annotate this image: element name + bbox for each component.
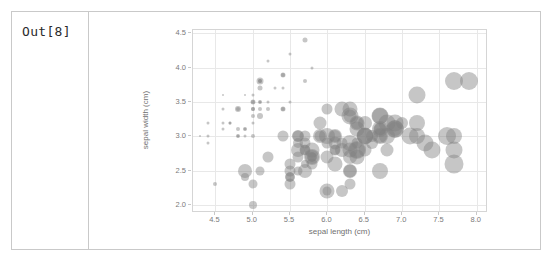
y-tick-label: 2.0 — [160, 199, 186, 208]
scatter-point — [460, 72, 478, 90]
scatter-point — [236, 134, 240, 138]
gridline-vertical — [477, 30, 478, 211]
scatter-point — [266, 59, 269, 62]
scatter-point — [251, 121, 254, 124]
scatter-point — [248, 180, 257, 189]
y-tick-mark — [188, 204, 191, 205]
gridline-horizontal — [193, 68, 486, 69]
scatter-point — [258, 86, 263, 91]
y-tick-label: 4.5 — [160, 28, 186, 37]
output-prompt-column: Out[8] — [12, 12, 89, 249]
x-tick-label: 7.0 — [396, 215, 406, 224]
scatter-point — [266, 107, 270, 111]
y-tick-mark — [188, 67, 191, 68]
scatter-point — [206, 142, 209, 145]
notebook-output-cell: Out[8] sepal width (cm) sepal length (cm… — [11, 11, 541, 250]
scatter-point — [221, 121, 224, 124]
y-tick-label: 4.0 — [160, 62, 186, 71]
scatter-point — [222, 94, 224, 96]
scatter-point — [289, 52, 292, 55]
scatter-point — [313, 129, 327, 143]
scatter-point — [262, 151, 273, 162]
x-tick-label: 5.5 — [284, 215, 294, 224]
scatter-point — [372, 163, 388, 179]
scatter-point — [303, 38, 308, 43]
x-tick-label: 8.0 — [471, 215, 481, 224]
scatter-point — [244, 135, 247, 138]
scatter-point — [258, 107, 262, 111]
x-axis-label: sepal length (cm) — [192, 227, 487, 236]
scatter-point — [335, 101, 350, 116]
output-content-column: sepal width (cm) sepal length (cm) 2.02.… — [89, 12, 540, 249]
scatter-point — [257, 113, 263, 119]
x-tick-label: 6.5 — [359, 215, 369, 224]
scatter-point — [221, 128, 224, 131]
x-tick-label: 4.5 — [209, 215, 219, 224]
y-tick-mark — [188, 170, 191, 171]
scatter-point — [249, 201, 257, 209]
scatter-point — [251, 134, 255, 138]
scatter-point — [281, 73, 285, 77]
x-tick-label: 6.0 — [321, 215, 331, 224]
scatter-point — [277, 131, 288, 142]
scatter-point — [313, 116, 326, 129]
scatter-point — [250, 99, 255, 104]
scatter-point — [258, 100, 262, 104]
x-tick-label: 7.5 — [433, 215, 443, 224]
y-tick-label: 3.5 — [160, 96, 186, 105]
scatter-point — [206, 121, 209, 124]
scatter-figure: sepal width (cm) sepal length (cm) 2.02.… — [89, 12, 542, 249]
scatter-point — [320, 184, 335, 199]
scatter-point — [342, 142, 357, 157]
scatter-point — [381, 143, 394, 156]
scatter-point — [251, 107, 255, 111]
scatter-point — [446, 128, 462, 144]
scatter-point — [258, 79, 262, 83]
scatter-point — [409, 87, 426, 104]
scatter-point — [289, 100, 292, 103]
gridline-horizontal — [193, 205, 486, 206]
scatter-point — [244, 94, 246, 96]
y-tick-mark — [188, 135, 191, 136]
scatter-point — [322, 103, 333, 114]
scatter-point — [235, 106, 241, 112]
screenshot-root: Out[8] sepal width (cm) sepal length (cm… — [0, 0, 554, 272]
scatter-point — [409, 128, 425, 144]
gridline-vertical — [439, 30, 440, 211]
scatter-point — [311, 66, 314, 69]
scatter-point — [357, 128, 373, 144]
y-tick-label: 2.5 — [160, 165, 186, 174]
y-tick-mark — [188, 101, 191, 102]
scatter-point — [251, 94, 254, 97]
scatter-point — [280, 106, 285, 111]
scatter-point — [221, 107, 224, 110]
scatter-point — [229, 121, 232, 124]
scatter-point — [344, 179, 355, 190]
scatter-point — [423, 141, 440, 158]
scatter-point — [281, 87, 284, 90]
scatter-point — [266, 100, 269, 103]
scatter-point — [251, 114, 255, 118]
gridline-horizontal — [193, 33, 486, 34]
scatter-point — [291, 143, 305, 157]
scatter-point — [303, 79, 307, 83]
x-tick-label: 5.0 — [247, 215, 257, 224]
scatter-point — [305, 150, 319, 164]
scatter-point — [371, 107, 388, 124]
scatter-point — [327, 156, 342, 171]
y-tick-mark — [188, 32, 191, 33]
scatter-point — [243, 127, 247, 131]
scatter-point — [372, 128, 388, 144]
scatter-point — [256, 166, 265, 175]
scatter-point — [199, 135, 201, 137]
scatter-point — [206, 135, 209, 138]
output-prompt-label: Out[8] — [22, 24, 88, 39]
scatter-point — [343, 164, 357, 178]
plot-area — [192, 29, 487, 212]
scatter-point — [298, 164, 312, 178]
scatter-point — [213, 182, 217, 186]
y-axis-label: sepal width (cm) — [141, 91, 150, 149]
y-tick-label: 3.0 — [160, 131, 186, 140]
scatter-point — [274, 87, 277, 90]
scatter-point — [236, 127, 240, 131]
